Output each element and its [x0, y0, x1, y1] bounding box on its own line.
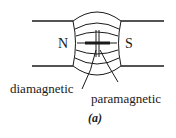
north-pole-label: N	[58, 37, 68, 51]
south-pole-face	[119, 21, 122, 66]
diamagnetic-leader	[82, 50, 96, 89]
field-line	[75, 23, 119, 29]
field-line	[76, 50, 118, 54]
field-line	[76, 32, 118, 36]
diamagnetic-label: diamagnetic	[10, 82, 74, 95]
figure-caption: (a)	[88, 112, 102, 124]
paramagnetic-label: paramagnetic	[91, 92, 161, 105]
south-pole-label: S	[125, 37, 133, 51]
field-arc-top	[73, 12, 121, 21]
north-pole-face	[73, 21, 76, 66]
field-line	[75, 58, 119, 64]
paramagnetic-leader	[100, 50, 118, 82]
field-arc-bottom	[73, 66, 121, 75]
